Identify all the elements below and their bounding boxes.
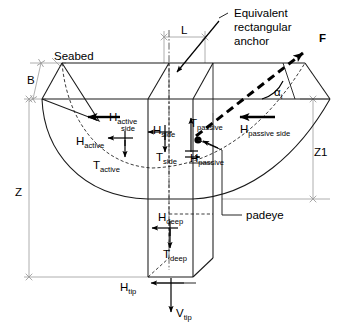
anchor-force-diagram: Seabed Equivalent rectangular anchor F L… (0, 0, 341, 331)
bucket-rear-right-curve (152, 63, 305, 168)
label-force-f: F (319, 32, 326, 44)
equivalent-anchor-leader-tail (219, 13, 228, 18)
label-dim-b: B (27, 74, 35, 86)
bucket-rear-left-curve (62, 63, 152, 168)
label-dim-z1: Z1 (314, 146, 327, 158)
label-angle-alpha: αi (274, 86, 283, 101)
label-h-active: Hactive (76, 135, 104, 150)
label-dim-l: L (181, 24, 188, 36)
label-equivalent-anchor-2: rectangular (234, 21, 292, 33)
label-h-passive-side: Hpassive side (240, 123, 290, 138)
label-equivalent-anchor-3: anchor (234, 35, 269, 47)
padeye-leader (198, 140, 242, 215)
label-t-active: Tactive (93, 159, 120, 174)
eq-box-back-left-slant (148, 63, 169, 99)
padeye-group (194, 136, 242, 215)
top-left-slant (42, 63, 62, 99)
diagram-canvas: Seabed Equivalent rectangular anchor F L… (0, 0, 341, 331)
label-padeye: padeye (246, 209, 284, 221)
shaft-bottom-right-slant (193, 258, 213, 277)
label-v-tip: Vtip (176, 307, 192, 322)
text-labels: Seabed Equivalent rectangular anchor F L… (15, 7, 327, 322)
top-right-slant (305, 63, 330, 99)
label-h-side: Hside (153, 124, 175, 139)
shaft-bottom-left-hidden (148, 258, 169, 277)
label-h-passive: Hpassive (190, 152, 224, 167)
label-h-active-side-2: side (121, 124, 135, 133)
label-dim-z: Z (15, 186, 22, 198)
label-t-side: Tside (156, 151, 177, 166)
label-equivalent-anchor-1: Equivalent (234, 7, 289, 19)
angle-ref-edge (283, 63, 295, 99)
label-t-deep: Tdeep (163, 248, 187, 263)
anchor-body (42, 30, 330, 277)
eq-box-back-right-slant (193, 63, 213, 99)
label-h-deep: Hdeep (158, 211, 183, 226)
bucket-front-right-curve (193, 99, 330, 199)
left-end-face (42, 63, 99, 121)
label-seabed: Seabed (54, 50, 94, 62)
label-h-tip: Htip (120, 281, 136, 296)
padeye-pointer-arrow (203, 141, 218, 148)
